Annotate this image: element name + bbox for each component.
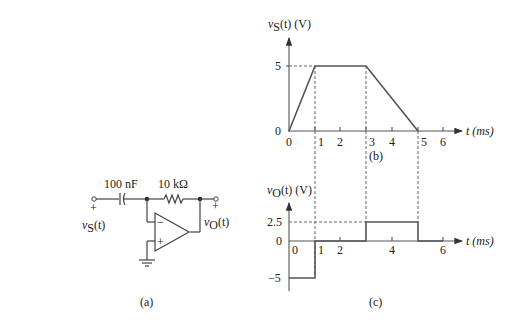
caption-a: (a) — [140, 295, 153, 309]
plot-c-ytick-2-5: 2.5 — [267, 215, 282, 229]
resistor-label: 10 kΩ — [158, 177, 188, 191]
caption-c: (c) — [369, 295, 382, 309]
time-guides — [315, 66, 418, 275]
plot-vs: vS(t) (V) t (ms) 5 0 0 1 2 3 4 5 6 (b) — [268, 17, 494, 163]
plot-c-xtick: 6 — [440, 243, 446, 257]
plot-b-xtick: 2 — [337, 135, 343, 149]
opamp-minus-sign: − — [157, 215, 164, 229]
plot-c-ytick-m5: −5 — [268, 271, 281, 285]
plot-b-ylabel: vS(t) (V) — [268, 17, 311, 34]
plot-b-xtick: 4 — [389, 135, 395, 149]
output-plus-sign: + — [212, 199, 219, 213]
circuit-diagram: + vS(t) 100 nF 10 kΩ + vO(t) — [82, 177, 229, 309]
capacitor-label: 100 nF — [104, 177, 138, 191]
resistor — [164, 195, 183, 203]
vo-waveform — [289, 222, 443, 278]
input-label: vS(t) — [82, 218, 105, 235]
plot-c-xtick: 4 — [389, 243, 395, 257]
figure-canvas: + vS(t) 100 nF 10 kΩ + vO(t) — [0, 0, 523, 333]
plot-c-xlabel: t (ms) — [466, 234, 494, 248]
vs-waveform — [289, 66, 418, 131]
plot-vo: vO(t) (V) t (ms) 2.5 0 −5 0 1 2 4 6 (c) — [267, 183, 494, 309]
ground-icon — [139, 260, 155, 266]
output-label: vO(t) — [204, 215, 229, 232]
input-plus-sign: + — [90, 201, 97, 215]
plot-c-xtick: 0 — [292, 243, 298, 257]
opamp-plus-sign: + — [157, 235, 164, 249]
plot-b-ytick-0: 0 — [275, 124, 281, 138]
plot-b-xtick: 3 — [369, 135, 375, 149]
plot-c-xtick: 1 — [318, 243, 324, 257]
plot-b-xtick: 1 — [318, 135, 324, 149]
caption-b: (b) — [369, 149, 383, 163]
plot-c-xtick: 2 — [337, 243, 343, 257]
plot-b-xtick: 5 — [421, 135, 427, 149]
plot-c-ylabel: vO(t) (V) — [267, 183, 312, 200]
plot-c-ytick-0: 0 — [276, 234, 282, 248]
plot-b-ytick-5: 5 — [275, 59, 281, 73]
plot-b-xtick: 0 — [286, 135, 292, 149]
plot-b-xlabel: t (ms) — [466, 124, 494, 138]
plot-b-xtick: 6 — [440, 135, 446, 149]
